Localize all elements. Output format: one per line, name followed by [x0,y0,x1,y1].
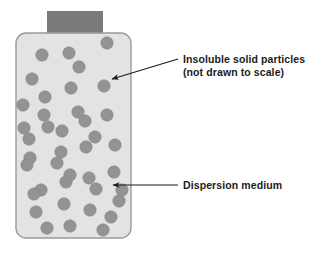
solid-particle [109,139,121,151]
solid-particle [89,131,101,143]
solid-particle [101,37,113,49]
solid-particle [108,166,120,178]
diagram-canvas: Insoluble solid particles(not drawn to s… [0,0,318,253]
solid-particle [101,109,113,121]
solid-particle [36,49,48,61]
particles-annotation-line-1: Insoluble solid particles [183,53,305,65]
solid-particle [80,141,92,153]
solid-particle [56,125,68,137]
solid-particle [105,211,117,223]
solid-particle [23,133,35,145]
solid-particle [90,183,102,195]
solid-particle [39,91,51,103]
solid-particle [38,109,50,121]
solid-particle [63,47,75,59]
particles-annotation-line-2: (not drawn to scale) [183,66,284,78]
solid-particle [83,172,95,184]
suspension-diagram: Insoluble solid particles(not drawn to s… [0,0,318,253]
solid-particle [84,204,96,216]
solid-particle [58,198,70,210]
solid-particle [26,73,38,85]
solid-particle [41,222,53,234]
solid-particle [30,206,42,218]
solid-particle [79,115,91,127]
solid-particle [17,99,29,111]
solid-particle [55,146,67,158]
solid-particle [51,157,63,169]
solid-particle [98,80,110,92]
solid-particle [73,61,85,73]
annotations-group: Insoluble solid particles(not drawn to s… [112,53,305,191]
solid-particle [60,176,72,188]
solid-particle [18,122,30,134]
solid-particle [21,159,33,171]
solid-particle [42,121,54,133]
solid-particle [116,184,128,196]
solid-particle [113,195,125,207]
solid-particle [64,220,76,232]
solid-particle [97,224,109,236]
solid-particle [28,188,40,200]
container-neck [47,11,103,35]
medium-annotation-line-1: Dispersion medium [183,179,282,191]
solid-particle [65,82,77,94]
